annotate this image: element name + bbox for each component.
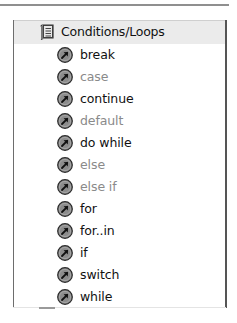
action-arrow-icon [57, 113, 73, 129]
action-item-label: else [80, 157, 105, 172]
action-item[interactable]: if [14, 243, 225, 265]
action-item[interactable]: case [14, 67, 225, 89]
action-item-label: for [80, 201, 97, 216]
action-arrow-icon [57, 179, 73, 195]
action-item[interactable]: switch [14, 265, 225, 287]
action-item-label: switch [80, 267, 119, 282]
category-header-conditions-loops[interactable]: Conditions/Loops [14, 20, 225, 44]
action-arrow-icon [57, 245, 73, 261]
action-arrow-icon [57, 135, 73, 151]
action-arrow-icon [57, 69, 73, 85]
action-item-label: while [80, 289, 112, 304]
action-item-label: else if [80, 179, 117, 194]
action-item-label: case [80, 69, 108, 84]
action-item-label: for..in [80, 223, 115, 238]
action-item-label: break [80, 47, 115, 62]
action-arrow-icon [57, 289, 73, 305]
action-item[interactable]: else if [14, 177, 225, 199]
action-item[interactable]: for [14, 199, 225, 221]
action-item-label: if [80, 245, 88, 260]
action-item[interactable]: while [14, 287, 225, 309]
category-label: Conditions/Loops [61, 24, 165, 39]
book-icon [39, 24, 55, 41]
action-arrow-icon [57, 47, 73, 63]
action-item[interactable]: break [14, 45, 225, 67]
action-arrow-icon [57, 201, 73, 217]
action-item[interactable]: else [14, 155, 225, 177]
action-arrow-icon [57, 223, 73, 239]
action-arrow-icon [57, 91, 73, 107]
action-item[interactable]: for..in [14, 221, 225, 243]
action-item[interactable]: do while [14, 133, 225, 155]
resize-handle[interactable] [39, 307, 55, 309]
action-item[interactable]: continue [14, 89, 225, 111]
action-item-label: default [80, 113, 123, 128]
action-arrow-icon [57, 267, 73, 283]
action-item[interactable]: default [14, 111, 225, 133]
actions-list-panel: Conditions/Loops breakcasecontinuedefaul… [13, 20, 227, 308]
action-item-label: do while [80, 135, 132, 150]
top-divider [0, 4, 229, 6]
action-item-label: continue [80, 91, 134, 106]
action-arrow-icon [57, 157, 73, 173]
